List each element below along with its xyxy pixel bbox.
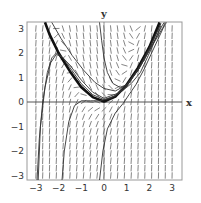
- slope-segment: [138, 106, 139, 112]
- slope-segment: [42, 55, 43, 61]
- slope-segment: [36, 25, 37, 31]
- x-tick-label: −3: [29, 183, 42, 193]
- slope-segment: [145, 77, 146, 83]
- y-axis-label: y: [100, 8, 108, 19]
- slope-segment: [49, 91, 50, 97]
- slope-segment: [70, 165, 71, 171]
- y-tick-label: 0: [18, 97, 24, 107]
- y-tick-label: −3: [11, 171, 24, 181]
- x-tick-label: −1: [75, 183, 88, 193]
- slope-segment: [145, 84, 146, 90]
- slope-segment: [124, 158, 125, 164]
- y-tick-labels: −3−2−10123: [11, 24, 25, 181]
- x-tick-label: −2: [52, 183, 65, 193]
- x-tick-label: 3: [169, 183, 175, 193]
- slope-segment: [56, 121, 57, 127]
- y-tick-label: −2: [11, 146, 24, 156]
- slope-segment: [49, 84, 50, 90]
- slope-segment: [138, 114, 139, 120]
- slope-segment: [124, 150, 125, 156]
- slope-segment: [151, 55, 152, 61]
- y-tick-label: 3: [18, 24, 24, 34]
- x-tick-label: 2: [147, 183, 153, 193]
- x-tick-labels: −3−2−10123: [29, 183, 175, 193]
- slope-segment: [63, 136, 64, 142]
- x-tick-label: 0: [101, 183, 107, 193]
- slope-segment: [131, 136, 132, 142]
- y-tick-label: 1: [18, 73, 24, 83]
- x-axis-label: x: [186, 97, 193, 108]
- slope-field-plot: −3−2−10123 −3−2−10123 y x: [0, 0, 201, 203]
- slope-segment: [70, 158, 71, 164]
- slope-segment: [63, 143, 64, 149]
- y-tick-label: −1: [11, 122, 24, 132]
- x-tick-label: 1: [124, 183, 130, 193]
- slope-segment: [117, 165, 118, 171]
- slope-segment: [76, 172, 77, 178]
- slope-segment: [42, 62, 43, 68]
- slope-segment: [56, 114, 57, 120]
- slope-segment: [117, 172, 118, 178]
- y-tick-label: 2: [18, 48, 24, 58]
